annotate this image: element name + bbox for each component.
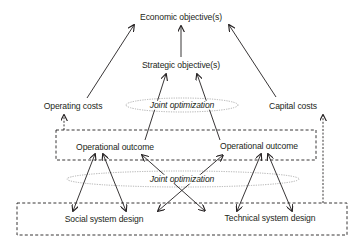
node-social-system-design: Social system design — [65, 215, 144, 224]
node-operating-costs: Operating costs — [44, 102, 103, 111]
node-technical-system-design: Technical system design — [225, 214, 316, 223]
joint-optimization-label-top: Joint optimization — [148, 101, 217, 110]
double-arrow-outcome-right-technical-1 — [237, 154, 261, 211]
arrow-capital-to-economic — [229, 25, 276, 97]
double-arrow-outcome-right-technical-2 — [268, 154, 292, 211]
node-operational-outcome-right: Operational outcome — [219, 142, 299, 151]
arrow-operating-to-economic — [87, 25, 134, 98]
double-arrow-outcome-left-social-2 — [103, 154, 126, 211]
node-economic-objectives: Economic objective(s) — [140, 13, 222, 22]
joint-optimization-label-bottom: Joint optimization — [148, 175, 217, 184]
node-strategic-objectives: Strategic objective(s) — [141, 61, 221, 70]
sociotechnical-diagram: Economic objective(s) Strategic objectiv… — [0, 0, 361, 246]
diagram-graphics — [0, 0, 361, 246]
node-capital-costs: Capital costs — [269, 102, 317, 111]
node-operational-outcome-left: Operational outcome — [75, 143, 155, 152]
